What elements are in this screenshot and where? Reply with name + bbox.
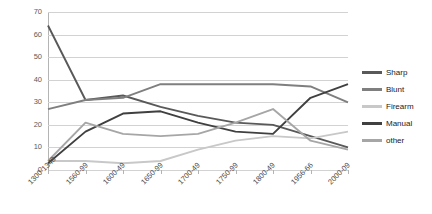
legend-item-blunt[interactable]: Blunt [362,81,432,98]
legend-label: other [386,136,404,145]
legend-label: Manual [386,119,412,128]
x-tick [48,170,49,174]
legend-item-manual[interactable]: Manual [362,115,432,132]
legend: SharpBluntFirearmManualother [362,64,432,149]
x-tick [123,170,124,174]
x-tick [198,170,199,174]
x-tick [273,170,274,174]
legend-swatch-icon [362,88,382,90]
legend-swatch-icon [362,139,382,141]
x-tick-label: 1300-1348 [26,155,58,187]
legend-item-sharp[interactable]: Sharp [362,64,432,81]
chart-container: 010203040506070 1300-13481560-991600-491… [0,0,432,214]
x-tick [348,170,349,174]
legend-swatch-icon [362,122,382,124]
legend-item-firearm[interactable]: Firearm [362,98,432,115]
legend-label: Firearm [386,102,414,111]
legend-label: Blunt [386,85,404,94]
legend-swatch-icon [362,105,382,107]
legend-swatch-icon [362,71,382,73]
legend-label: Sharp [386,68,407,77]
legend-item-other[interactable]: other [362,132,432,149]
